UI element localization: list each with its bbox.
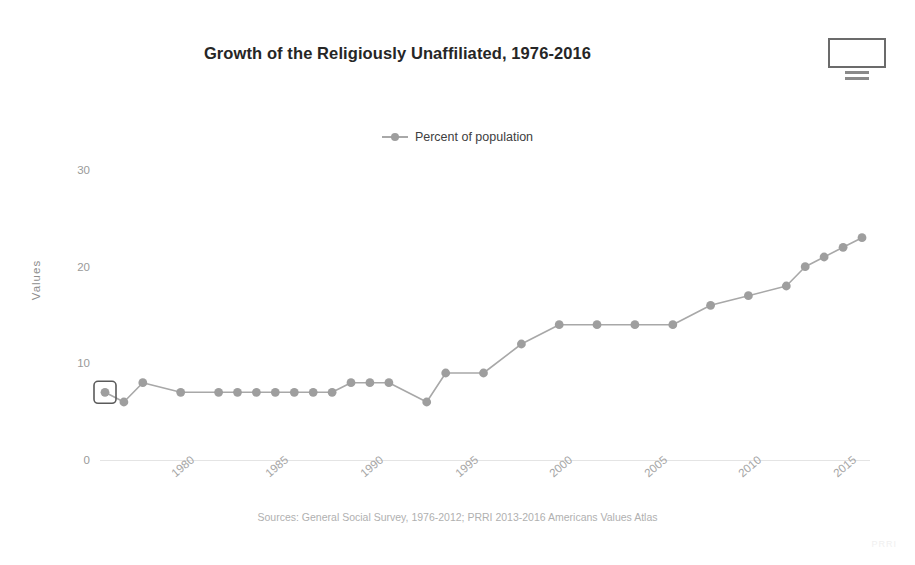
data-point[interactable] (233, 388, 242, 397)
series-layer (0, 0, 915, 565)
data-point[interactable] (858, 233, 867, 242)
data-point[interactable] (138, 378, 147, 387)
data-point[interactable] (328, 388, 337, 397)
data-point[interactable] (555, 320, 564, 329)
data-point[interactable] (441, 369, 450, 378)
data-point[interactable] (839, 243, 848, 252)
data-point[interactable] (801, 262, 810, 271)
data-point[interactable] (385, 378, 394, 387)
data-point[interactable] (309, 388, 318, 397)
data-point[interactable] (479, 369, 488, 378)
data-point[interactable] (366, 378, 375, 387)
data-point[interactable] (631, 320, 640, 329)
data-point[interactable] (593, 320, 602, 329)
plot-area: Values 30 20 10 0 1980198519901995200020… (0, 0, 915, 565)
source-note: Sources: General Social Survey, 1976-201… (0, 511, 915, 523)
data-point[interactable] (517, 340, 526, 349)
data-point[interactable] (422, 398, 431, 407)
data-point[interactable] (290, 388, 299, 397)
data-point[interactable] (252, 388, 261, 397)
data-point[interactable] (347, 378, 356, 387)
watermark: PRRI (871, 539, 897, 549)
chart-canvas: Growth of the Religiously Unaffiliated, … (0, 0, 915, 565)
series-markers (101, 233, 867, 406)
data-point[interactable] (214, 388, 223, 397)
data-point[interactable] (101, 388, 110, 397)
data-point[interactable] (706, 301, 715, 310)
data-point[interactable] (120, 398, 129, 407)
data-point[interactable] (782, 282, 791, 291)
data-point[interactable] (176, 388, 185, 397)
data-point[interactable] (744, 291, 753, 300)
data-point[interactable] (820, 253, 829, 262)
data-point[interactable] (271, 388, 280, 397)
data-point[interactable] (668, 320, 677, 329)
